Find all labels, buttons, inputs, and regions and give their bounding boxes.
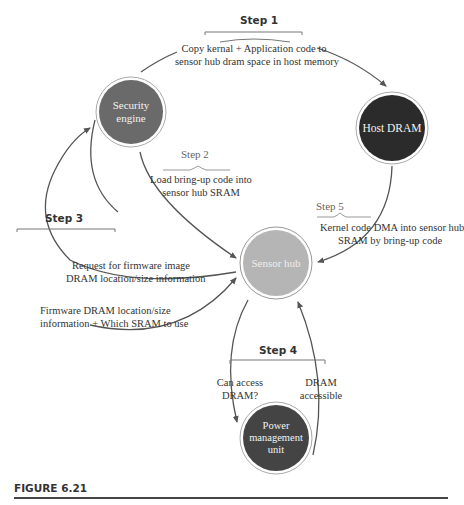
step5-description: Kernel code DMA into sensor hubSRAM by b… [320,222,460,247]
step4-brace [230,360,325,364]
step2-brace [163,166,230,170]
power-management-unit-label: Powermanagementunit [240,418,312,458]
diagram-canvas [0,0,464,505]
step3-request-description: Request for firmware imageDRAM location/… [66,260,196,285]
step4-label: Step 4 [259,344,297,356]
step3-label: Step 3 [45,212,83,224]
security-engine-label: Securityengine [99,92,163,132]
arrow-security-to-hostdram-left [141,52,177,72]
figure-caption: FIGURE 6.21 [14,482,87,494]
caption-divider [14,497,448,499]
sensor-hub-label: Sensor hub [243,253,309,273]
step1-label: Step 1 [240,14,278,26]
step3-brace [17,229,115,232]
arrow-security-to-sensorhub [140,152,236,258]
arrow-sensorhub-to-pmu [231,300,248,422]
step4-reply-description: DRAMaccessible [291,377,351,402]
arrow-hostdram-to-sensorhub [318,166,392,262]
step3-response-description: Firmware DRAM location/sizeinformation +… [40,305,170,330]
step2-label: Step 2 [181,148,209,160]
step1-brace [205,32,302,35]
step5-brace [317,213,371,217]
step2-description: Load bring-up code intosensor hub SRAM [146,174,256,199]
host-dram-label: Host DRAM [358,118,426,138]
step4-query-description: Can accessDRAM? [210,377,270,402]
step5-label: Step 5 [316,200,344,212]
step1-description: Copy kernal + Application code tosensor … [175,43,333,68]
